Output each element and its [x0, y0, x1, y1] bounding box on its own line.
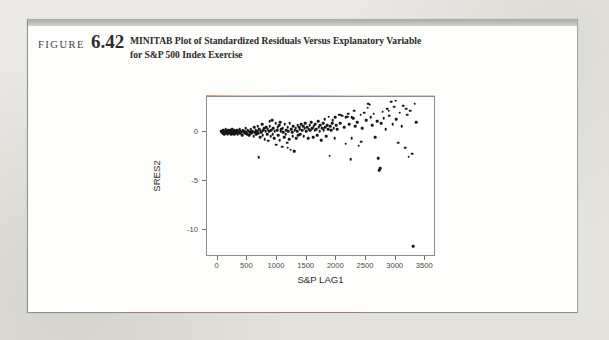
data-point	[304, 122, 307, 125]
data-point	[366, 106, 369, 109]
data-point	[289, 122, 292, 125]
data-point	[303, 135, 306, 138]
y-axis-title: SRES2	[151, 160, 162, 191]
x-axis-tick	[335, 256, 336, 260]
data-point	[269, 125, 272, 128]
figure-label: FIGURE 6.42	[38, 33, 130, 50]
data-point	[261, 123, 264, 126]
data-point	[326, 124, 329, 127]
data-point	[257, 156, 260, 159]
data-point	[413, 103, 416, 106]
data-point	[343, 126, 346, 129]
data-point	[369, 116, 372, 119]
data-point	[318, 130, 321, 133]
data-point	[327, 115, 330, 118]
data-point	[380, 122, 383, 125]
caption-line-2: for S&P 500 Index Exercise	[130, 48, 421, 62]
data-point	[348, 123, 351, 126]
data-point	[331, 122, 334, 125]
data-point	[295, 137, 298, 140]
data-point	[332, 119, 335, 122]
data-point	[320, 139, 323, 142]
x-axis-tick-label: 0	[215, 261, 219, 270]
data-point	[405, 107, 408, 110]
data-point	[299, 133, 302, 136]
x-axis-tick-label: 2000	[327, 261, 344, 270]
data-point	[332, 127, 335, 130]
plot-frame	[206, 96, 435, 256]
y-axis-tick	[202, 229, 206, 230]
data-point	[271, 133, 274, 136]
data-point	[293, 150, 296, 153]
data-point	[353, 109, 356, 112]
data-point	[390, 101, 393, 104]
data-point	[412, 245, 415, 248]
data-point	[283, 136, 286, 139]
figure-box: FIGURE 6.42 MINITAB Plot of Standardized…	[27, 19, 578, 313]
data-point	[329, 125, 332, 128]
data-point	[363, 111, 366, 114]
data-point	[395, 118, 398, 121]
x-axis-tick-label: 1000	[268, 261, 285, 270]
figure-caption: FIGURE 6.42 MINITAB Plot of Standardized…	[38, 33, 563, 62]
data-point	[391, 123, 394, 126]
data-point	[411, 152, 414, 155]
data-point	[354, 125, 357, 128]
scan-color-fringe-bottom	[127, 312, 358, 314]
data-point	[317, 120, 320, 123]
data-point	[359, 113, 362, 116]
data-point	[334, 116, 337, 119]
data-point	[406, 113, 409, 116]
data-point	[266, 133, 269, 136]
data-point	[409, 109, 412, 112]
y-axis-tick-label: -10	[187, 224, 198, 233]
data-point	[316, 134, 319, 137]
data-point	[350, 116, 353, 119]
scatter-plot: 05001000150020002500300035000-5-10 S&P L…	[138, 88, 438, 306]
x-axis-tick-label: 2500	[357, 261, 374, 270]
data-point	[328, 154, 331, 157]
data-points-layer	[207, 97, 434, 255]
data-point	[404, 146, 407, 149]
data-point	[367, 103, 370, 106]
data-point	[312, 136, 315, 139]
data-point	[275, 144, 278, 147]
data-point	[387, 109, 390, 112]
y-axis-tick	[202, 180, 206, 181]
data-point	[281, 127, 284, 130]
x-axis-tick-label: 500	[240, 261, 253, 270]
data-point	[276, 129, 279, 132]
y-axis-tick-label: -5	[191, 175, 198, 184]
data-point	[289, 148, 292, 151]
data-point	[261, 134, 264, 137]
data-point	[264, 138, 267, 141]
data-point	[325, 135, 328, 138]
data-point	[286, 146, 289, 149]
x-axis-tick-label: 3000	[386, 261, 403, 270]
data-point	[360, 141, 363, 144]
data-point	[281, 145, 284, 148]
data-point	[384, 128, 387, 131]
data-point	[269, 120, 272, 123]
data-point	[277, 134, 280, 137]
x-axis-tick	[246, 256, 247, 260]
data-point	[358, 144, 361, 147]
data-point	[374, 136, 377, 139]
data-point	[382, 117, 385, 120]
data-point	[397, 142, 400, 145]
x-axis-tick-label: 1500	[297, 261, 314, 270]
data-point	[372, 112, 375, 115]
figure-header-bar	[28, 19, 577, 26]
x-axis-tick	[424, 256, 425, 260]
data-point	[376, 120, 379, 123]
x-axis-tick-label: 3500	[416, 261, 433, 270]
x-axis-tick	[306, 256, 307, 260]
data-point	[400, 125, 403, 128]
data-point	[333, 137, 336, 140]
figure-label-word: FIGURE	[38, 39, 85, 50]
data-point	[415, 121, 418, 124]
x-axis-title: S&P LAG1	[206, 274, 435, 285]
figure-caption-text: MINITAB Plot of Standardized Residuals V…	[130, 33, 421, 62]
data-point	[393, 105, 396, 108]
data-point	[377, 157, 380, 160]
